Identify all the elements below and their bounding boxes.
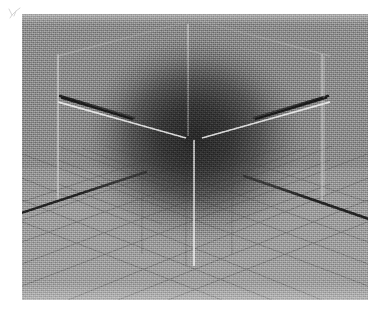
pencil-mark-icon bbox=[7, 6, 23, 21]
page-root bbox=[0, 0, 387, 315]
scan-vignette bbox=[22, 14, 368, 300]
figure-3d-plot bbox=[22, 14, 368, 300]
